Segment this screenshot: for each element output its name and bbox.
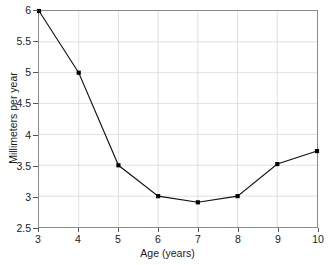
x-axis-tick-label: 7 [185, 233, 211, 245]
y-axis-tick [33, 41, 38, 42]
y-axis-tick [33, 197, 38, 198]
x-axis-tick [38, 228, 39, 232]
y-axis-tick [33, 228, 38, 229]
x-axis-tick-label: 8 [225, 233, 251, 245]
data-point-marker [196, 200, 200, 204]
data-point-marker [315, 149, 319, 153]
data-point-marker [116, 163, 120, 167]
y-axis-tick-label: 3.5 [5, 160, 31, 172]
data-point-marker [156, 194, 160, 198]
plot-area [38, 10, 318, 228]
y-axis-tick [33, 103, 38, 104]
x-axis-tick [158, 228, 159, 232]
y-axis-tick-label: 4.5 [5, 97, 31, 109]
data-point-marker [235, 194, 239, 198]
y-axis-tick [33, 10, 38, 11]
y-axis-tick-label: 3 [5, 191, 31, 203]
x-axis-label: Age (years) [0, 247, 335, 259]
data-series [39, 11, 317, 227]
y-axis-tick-label: 5.5 [5, 35, 31, 47]
x-axis-tick-label: 10 [305, 233, 331, 245]
y-axis-tick-label: 5 [5, 66, 31, 78]
x-axis-tick-label: 6 [145, 233, 171, 245]
data-line [39, 11, 317, 202]
x-axis-tick-label: 3 [25, 233, 51, 245]
x-axis-tick [278, 228, 279, 232]
data-point-marker [275, 162, 279, 166]
y-axis-tick-label: 6 [5, 4, 31, 16]
x-axis-tick [238, 228, 239, 232]
x-axis-tick [118, 228, 119, 232]
x-axis-tick [198, 228, 199, 232]
y-axis-tick-label: 4 [5, 129, 31, 141]
x-axis-tick-label: 9 [265, 233, 291, 245]
x-axis-tick [78, 228, 79, 232]
x-axis-tick-label: 4 [65, 233, 91, 245]
y-axis-tick [33, 166, 38, 167]
x-axis-tick-label: 5 [105, 233, 131, 245]
x-axis-tick [318, 228, 319, 232]
y-axis-tick-label: 2.5 [5, 222, 31, 234]
y-axis-tick [33, 72, 38, 73]
y-axis-tick [33, 135, 38, 136]
data-point-marker [77, 71, 81, 75]
line-chart-figure: Millimeters per year 3456789102.533.544.… [0, 0, 335, 265]
